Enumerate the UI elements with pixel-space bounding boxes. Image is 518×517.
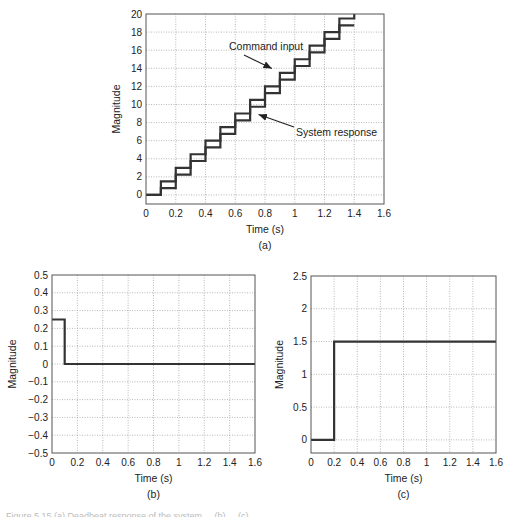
svg-text:1.2: 1.2 — [443, 457, 457, 468]
chart-c: 00.20.40.60.811.21.41.600.511.522.5Time … — [273, 271, 503, 501]
svg-text:−0.5: −0.5 — [28, 448, 48, 459]
x-axis-label: Time (s) — [246, 223, 284, 235]
svg-text:0.6: 0.6 — [121, 457, 135, 468]
svg-text:1.2: 1.2 — [318, 208, 332, 219]
svg-text:0.5: 0.5 — [293, 402, 307, 413]
svg-text:0.4: 0.4 — [96, 457, 110, 468]
svg-text:6: 6 — [136, 135, 142, 146]
svg-text:−0.4: −0.4 — [28, 430, 48, 441]
svg-text:1: 1 — [301, 369, 307, 380]
y-tick-labels: −0.5−0.4−0.3−0.2−0.100.10.20.30.40.5 — [28, 270, 48, 459]
y-axis-label: Magnitude — [273, 340, 285, 389]
svg-text:0: 0 — [301, 434, 307, 445]
svg-text:0.2: 0.2 — [327, 457, 341, 468]
svg-text:0.5: 0.5 — [34, 270, 48, 281]
svg-text:0.2: 0.2 — [34, 323, 48, 334]
svg-text:0.4: 0.4 — [34, 287, 48, 298]
svg-text:14: 14 — [131, 63, 143, 74]
svg-text:1.4: 1.4 — [466, 457, 480, 468]
svg-text:2: 2 — [301, 303, 307, 314]
svg-text:−0.1: −0.1 — [28, 376, 48, 387]
svg-text:1.4: 1.4 — [347, 208, 361, 219]
svg-text:0: 0 — [136, 189, 142, 200]
subfigure-label: (b) — [147, 488, 160, 500]
subfigure-label: (a) — [259, 239, 272, 251]
svg-text:1: 1 — [176, 457, 182, 468]
svg-text:0: 0 — [42, 359, 48, 370]
svg-text:1.6: 1.6 — [248, 457, 262, 468]
svg-text:20: 20 — [131, 9, 143, 20]
svg-text:−0.2: −0.2 — [28, 394, 48, 405]
svg-text:0: 0 — [308, 457, 314, 468]
svg-text:0.6: 0.6 — [373, 457, 387, 468]
svg-text:0.4: 0.4 — [350, 457, 364, 468]
y-axis-label: Magnitude — [6, 339, 18, 388]
svg-text:4: 4 — [136, 153, 142, 164]
subfigure-label: (c) — [397, 488, 409, 500]
x-axis-label: Time (s) — [384, 472, 422, 484]
figure-caption: Figure 5.15 (a) Deadbeat response of the… — [6, 509, 516, 517]
svg-text:0: 0 — [49, 457, 55, 468]
svg-text:10: 10 — [131, 99, 143, 110]
annotation-command-input: Command input — [229, 40, 303, 52]
svg-text:8: 8 — [136, 117, 142, 128]
svg-text:2: 2 — [136, 171, 142, 182]
svg-text:1.2: 1.2 — [197, 457, 211, 468]
svg-text:1.4: 1.4 — [223, 457, 237, 468]
svg-text:0.2: 0.2 — [169, 208, 183, 219]
svg-text:1.5: 1.5 — [293, 336, 307, 347]
x-tick-labels: 00.20.40.60.811.21.41.6 — [143, 208, 391, 219]
chart-b: 00.20.40.60.811.21.41.6−0.5−0.4−0.3−0.2−… — [6, 270, 262, 501]
svg-text:16: 16 — [131, 45, 143, 56]
svg-text:0.8: 0.8 — [397, 457, 411, 468]
y-tick-labels: 02468101214161820 — [131, 9, 143, 201]
x-axis-label: Time (s) — [134, 472, 172, 484]
y-tick-labels: 00.511.522.5 — [293, 271, 307, 446]
svg-text:0.1: 0.1 — [34, 341, 48, 352]
annotation-system-response: System response — [296, 126, 377, 138]
svg-text:0.6: 0.6 — [228, 208, 242, 219]
svg-text:0: 0 — [143, 208, 149, 219]
svg-text:−0.3: −0.3 — [28, 412, 48, 423]
svg-text:2.5: 2.5 — [293, 271, 307, 282]
x-tick-labels: 00.20.40.60.811.21.41.6 — [49, 457, 262, 468]
figure: 00.20.40.60.811.21.41.602468101214161820… — [0, 0, 518, 517]
svg-text:1: 1 — [292, 208, 298, 219]
svg-text:0.2: 0.2 — [70, 457, 84, 468]
svg-text:1.6: 1.6 — [377, 208, 391, 219]
svg-text:0.8: 0.8 — [147, 457, 161, 468]
svg-text:1.6: 1.6 — [489, 457, 503, 468]
svg-text:1: 1 — [424, 457, 430, 468]
svg-text:18: 18 — [131, 27, 143, 38]
svg-text:0.8: 0.8 — [258, 208, 272, 219]
svg-text:0.3: 0.3 — [34, 305, 48, 316]
svg-text:12: 12 — [131, 81, 143, 92]
svg-text:0.4: 0.4 — [199, 208, 213, 219]
y-axis-label: Magnitude — [110, 84, 122, 133]
chart-a: 00.20.40.60.811.21.41.602468101214161820… — [110, 9, 391, 252]
x-tick-labels: 00.20.40.60.811.21.41.6 — [308, 457, 503, 468]
